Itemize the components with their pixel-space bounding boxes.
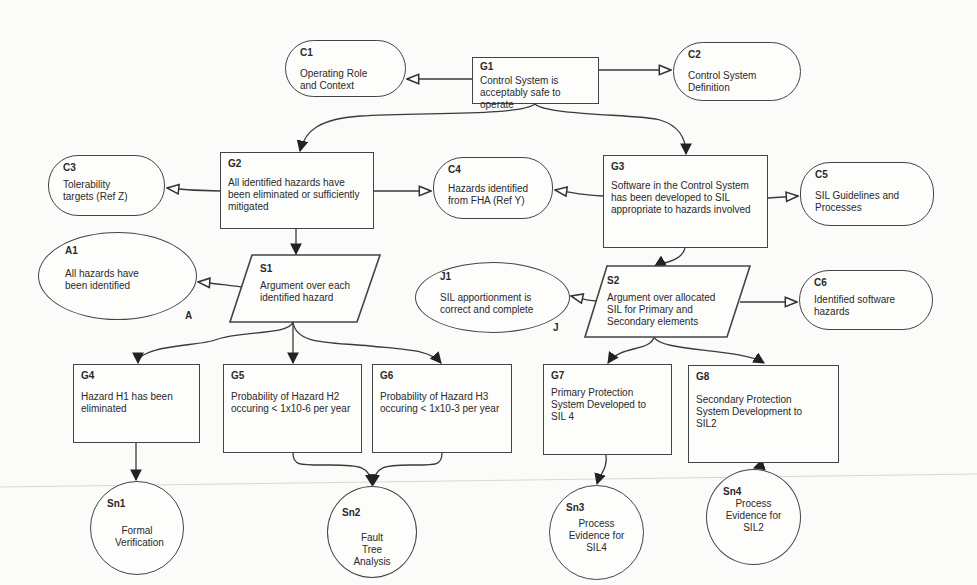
context-c2: C2 Control System Definition [673,42,801,101]
justification-j1: J1 SIL apportionment is correct and comp… [415,262,570,333]
node-id: G8 [696,371,831,382]
node-text: Hazards identified from FHA (Ref Y) [448,183,540,207]
node-text: All hazards have been identified [65,268,155,292]
node-id: J1 [440,271,545,282]
gsn-diagram: G1 Control System is acceptably safe to … [0,0,977,585]
goal-g4: G4 Hazard H1 has been eliminated [73,364,200,443]
node-text: Fault Tree Analysis [328,532,416,568]
solution-sn2: Sn2 Fault Tree Analysis [327,486,417,578]
node-text: Probability of Hazard H2 occuring < 1x10… [231,391,356,415]
node-text: All identified hazards have been elimina… [228,177,363,213]
node-id: C6 [814,277,918,288]
context-c3: C3 Tolerability targets (Ref Z) [48,155,165,216]
node-id: G2 [228,158,366,169]
node-text: SIL Guidelines and Processes [815,190,905,214]
strategy-s2: S2 Argument over allocated SIL for Prima… [585,266,750,337]
node-text: Process Evidence for SIL4 [550,518,643,554]
node-id: C3 [63,162,150,173]
goal-g6: G6 Probability of Hazard H3 occuring < 1… [372,364,512,453]
node-id: C4 [448,164,538,175]
node-id: G3 [611,161,760,172]
node-id: G7 [551,370,664,381]
goal-g7: G7 Primary Protection System Developed t… [543,364,672,455]
node-text: Operating Role and Context [300,68,375,92]
context-c1: C1 Operating Role and Context [285,40,406,97]
node-text: Tolerability targets (Ref Z) [63,179,138,203]
node-id: Sn2 [342,507,360,518]
node-text: Identified software hazards [814,294,909,318]
node-id: Sn1 [107,498,125,509]
node-id: S1 [260,263,365,274]
goal-g3: G3 Software in the Control System has be… [603,155,768,248]
node-text: Control System Definition [688,70,773,94]
solution-sn3: Sn3 Process Evidence for SIL4 [549,485,644,580]
node-id: C1 [300,47,391,58]
node-text: Argument over each identified hazard [260,280,365,304]
node-text: Primary Protection System Developed to S… [551,387,663,423]
node-id: C5 [815,169,919,180]
justification-marker: J [553,322,559,333]
node-id: Sn3 [566,502,584,513]
node-text: Formal Verification [91,525,183,549]
node-text: Hazard H1 has been eliminated [81,391,191,415]
goal-g1: G1 Control System is acceptably safe to … [472,57,599,104]
goal-g5: G5 Probability of Hazard H2 occuring < 1… [223,364,362,453]
node-id: S2 [607,275,732,286]
strategy-s1: S1 Argument over each identified hazard [230,255,380,322]
goal-g8: G8 Secondary Protection System Developme… [688,365,839,463]
assumption-a1: A1 All hazards have been identified [38,232,197,320]
context-c5: C5 SIL Guidelines and Processes [800,162,934,226]
node-id: A1 [65,245,170,256]
node-text: SIL apportionment is correct and complet… [440,292,555,316]
node-id: Sn4 [723,486,741,497]
context-c4: C4 Hazards identified from FHA (Ref Y) [433,157,553,219]
node-text: Argument over allocated SIL for Primary … [607,292,732,328]
node-text: Software in the Control System has been … [611,180,766,216]
node-text: Control System is acceptably safe to ope… [480,75,591,111]
node-id: G1 [480,61,591,72]
goal-g2: G2 All identified hazards have been elim… [220,152,374,229]
node-id: C2 [688,49,786,60]
solution-sn1: Sn1 Formal Verification [90,481,184,575]
assumption-marker: A [185,310,192,321]
node-text: Secondary Protection System Development … [696,394,821,430]
node-id: G6 [380,370,504,381]
node-id: G4 [81,370,192,381]
node-id: G5 [231,370,354,381]
context-c6: C6 Identified software hazards [799,270,933,330]
node-text: Process Evidence for SIL2 [707,498,800,534]
node-text: Probability of Hazard H3 occuring < 1x10… [380,391,505,415]
solution-sn4: Sn4 Process Evidence for SIL2 [706,469,801,565]
